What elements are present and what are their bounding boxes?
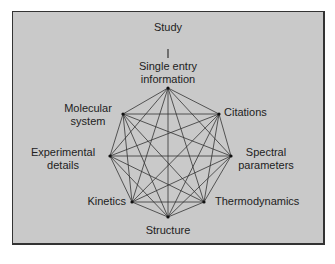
edge-single-experimental <box>110 88 168 156</box>
edge-thermo-structure <box>168 202 204 217</box>
label-line: Single entry <box>128 60 208 73</box>
label-structure: Structure <box>138 224 198 237</box>
edge-single-citations <box>168 88 219 114</box>
label-citations: Citations <box>224 106 267 119</box>
node-citations <box>217 112 220 115</box>
edge-spectral-molecular <box>123 114 231 156</box>
label-thermodynamics: Thermodynamics <box>215 195 299 208</box>
node-structure <box>166 215 169 218</box>
edge-thermo-molecular <box>123 114 204 202</box>
label-line: Molecular <box>60 102 116 115</box>
node-kinetics <box>130 200 133 203</box>
label-kinetics: Kinetics <box>84 195 126 208</box>
label-experimental: Experimental details <box>28 146 98 172</box>
node-single <box>166 86 169 89</box>
edge-kinetics-molecular <box>123 114 132 202</box>
edge-single-thermo <box>168 88 204 202</box>
node-molecular <box>121 112 124 115</box>
label-line: system <box>60 115 116 128</box>
label-molecular: Molecular system <box>60 102 116 128</box>
node-spectral <box>229 154 232 157</box>
label-study: Study <box>148 21 188 34</box>
label-line: parameters <box>236 159 296 172</box>
label-line: details <box>28 159 98 172</box>
node-experimental <box>108 154 111 157</box>
label-line: Experimental <box>28 146 98 159</box>
label-line: information <box>128 73 208 86</box>
label-line: Spectral <box>236 146 296 159</box>
node-thermo <box>202 200 205 203</box>
label-spectral: Spectral parameters <box>236 146 296 172</box>
label-single-entry: Single entry information <box>128 60 208 86</box>
